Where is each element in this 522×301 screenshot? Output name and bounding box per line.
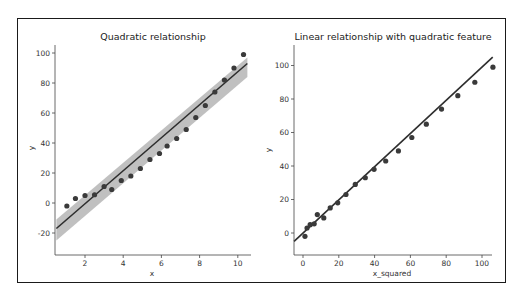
y-tick-label: 80: [279, 95, 289, 104]
x-tick-label: 8: [197, 259, 202, 268]
data-point: [424, 122, 429, 127]
data-point: [371, 167, 376, 172]
y-tick-label: 40: [40, 139, 50, 148]
data-point: [231, 65, 236, 70]
x-tick-label: 10: [233, 259, 243, 268]
left-chart-panel: Quadratic relationship -20020406080100 2…: [27, 31, 251, 278]
data-point: [138, 166, 143, 171]
data-point: [193, 115, 198, 120]
left-y-ticks: -20020406080100: [36, 49, 55, 238]
right-y-ticks: 020406080100: [275, 61, 294, 238]
data-point: [383, 158, 388, 163]
data-point: [184, 127, 189, 132]
data-point: [321, 215, 326, 220]
x-tick-label: 20: [334, 259, 344, 268]
x-tick-label: 2: [83, 259, 88, 268]
data-point: [335, 200, 340, 205]
data-point: [157, 151, 162, 156]
data-point: [363, 175, 368, 180]
data-point: [343, 192, 348, 197]
right-y-label: y: [264, 147, 273, 152]
x-tick-label: 6: [159, 259, 164, 268]
data-point: [165, 143, 170, 148]
data-point: [241, 52, 246, 57]
data-point: [109, 187, 114, 192]
y-tick-label: 20: [40, 169, 50, 178]
data-point: [64, 203, 69, 208]
data-point: [439, 106, 444, 111]
data-point: [472, 80, 477, 85]
data-point: [73, 196, 78, 201]
regression-line: [294, 57, 493, 241]
x-tick-label: 60: [406, 259, 416, 268]
data-point: [455, 93, 460, 98]
confidence-band: [56, 58, 247, 241]
chart-canvas: Quadratic relationship -20020406080100 2…: [0, 0, 522, 301]
data-point: [353, 182, 358, 187]
data-point: [102, 184, 107, 189]
x-tick-label: 0: [301, 259, 306, 268]
data-points: [302, 65, 495, 239]
y-tick-label: 80: [40, 79, 50, 88]
data-point: [119, 178, 124, 183]
y-tick-label: 40: [279, 162, 289, 171]
x-tick-label: 80: [441, 259, 451, 268]
data-point: [302, 234, 307, 239]
left-chart-title: Quadratic relationship: [100, 31, 206, 42]
y-tick-label: 0: [45, 199, 50, 208]
data-point: [92, 192, 97, 197]
right-x-ticks: 020406080100: [301, 255, 490, 268]
right-chart-panel: Linear relationship with quadratic featu…: [264, 31, 496, 278]
data-point: [128, 173, 133, 178]
data-point: [203, 103, 208, 108]
data-point: [315, 212, 320, 217]
data-point: [396, 148, 401, 153]
y-tick-label: 60: [279, 128, 289, 137]
y-tick-label: 100: [36, 49, 51, 58]
data-point: [222, 77, 227, 82]
data-point: [312, 221, 317, 226]
y-tick-label: 20: [279, 195, 289, 204]
y-tick-label: 0: [284, 229, 289, 238]
y-tick-label: -20: [38, 229, 50, 238]
data-points: [64, 52, 246, 209]
regression-line: [56, 64, 247, 229]
left-y-label: y: [27, 145, 36, 150]
right-chart-title: Linear relationship with quadratic featu…: [294, 31, 491, 42]
left-x-label: x: [150, 269, 155, 278]
data-point: [147, 157, 152, 162]
y-tick-label: 100: [275, 61, 290, 70]
x-tick-label: 100: [475, 259, 490, 268]
data-point: [174, 136, 179, 141]
x-tick-label: 40: [370, 259, 380, 268]
data-point: [212, 89, 217, 94]
data-point: [409, 135, 414, 140]
data-point: [328, 205, 333, 210]
right-x-label: x_squared: [373, 269, 412, 278]
y-tick-label: 60: [40, 109, 50, 118]
data-point: [82, 193, 87, 198]
data-point: [490, 65, 495, 70]
x-tick-label: 4: [121, 259, 126, 268]
left-x-ticks: 246810: [83, 255, 243, 268]
